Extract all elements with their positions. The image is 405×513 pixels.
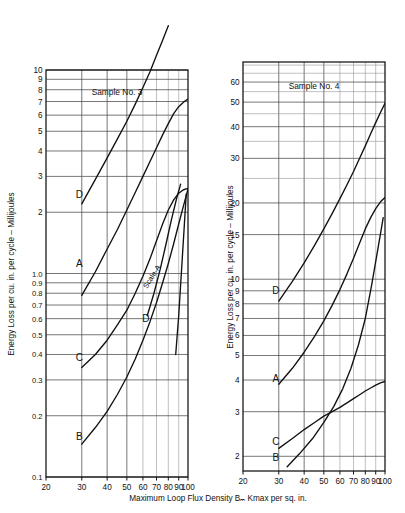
panel-0-ytick-0.8: 0.8: [32, 289, 43, 298]
panel-1-curve-label-B: B: [272, 452, 279, 463]
panel-0-curve-label-A: A: [76, 258, 83, 269]
panel-0-xtick-80: 80: [164, 483, 174, 492]
panel-0-curve-B: [82, 189, 188, 444]
panel-0-ytick-7: 7: [38, 98, 43, 107]
panel-1-ytick-9: 9: [235, 287, 240, 296]
panel-0-ytick-3: 3: [38, 172, 43, 181]
panel-1-xtick-60: 60: [335, 477, 345, 486]
panel-1-ytick-6: 6: [235, 331, 240, 340]
panel-0-ytick-4: 4: [38, 147, 43, 156]
panel-0-ytick-2: 2: [38, 208, 43, 217]
panel-1-ytick-30: 30: [230, 154, 240, 163]
panel-0-xtick-70: 70: [152, 483, 162, 492]
panel-0-ytick-9: 9: [38, 75, 43, 84]
panel-0-ytick-0.4: 0.4: [32, 350, 43, 359]
panel-1-curve-label-C: C: [272, 436, 279, 447]
panel-0-ytick-8: 8: [38, 86, 43, 95]
panel-0-ytick-0.1: 0.1: [32, 473, 43, 482]
panel-0-xtick-40: 40: [103, 483, 113, 492]
panel-0-ytick-0.7: 0.7: [32, 301, 43, 310]
figure-root: 0.10.20.30.40.50.60.70.80.91.02345678910…: [0, 0, 405, 513]
panel-1-xtick-40: 40: [300, 477, 310, 486]
panel-0-xtick-30: 30: [77, 483, 87, 492]
panel-1-frame: [243, 62, 385, 471]
y-axis-title-left: Energy Loss per cu. in. per cycle – Mill…: [7, 192, 16, 355]
panel-1-xtick-70: 70: [349, 477, 359, 486]
panel-1-curve-C: [279, 381, 385, 448]
panel-0-curve-E: [176, 194, 187, 354]
panel-1-ytick-8: 8: [235, 300, 240, 309]
panel-0-curve-D-scale-A: [147, 184, 180, 316]
panel-0-xtick-100: 100: [181, 483, 195, 492]
panel-0-xtick-60: 60: [138, 483, 148, 492]
panel-1-ytick-5: 5: [235, 351, 240, 360]
panel-0-annotation-0: Scale-A: [141, 263, 163, 290]
panel-0-curve-label-B: B: [76, 431, 83, 442]
panel-1-xtick-30: 30: [274, 477, 284, 486]
panel-0-xtick-50: 50: [122, 483, 132, 492]
panel-1-ytick-2: 2: [235, 452, 240, 461]
panel-0-curve-A: [82, 99, 188, 295]
panel-1-xtick-20: 20: [238, 477, 248, 486]
panel-1-curve-label-A: A: [272, 373, 279, 384]
panel-0-sample-title: Sample No. 3: [92, 87, 143, 97]
x-axis-title: Maximum Loop Flux Density Bₘ Kmax per sq…: [129, 494, 306, 503]
panel-1-ytick-4: 4: [235, 376, 240, 385]
panel-0-ytick-0.9: 0.9: [32, 279, 43, 288]
panel-1-ytick-60: 60: [230, 78, 240, 87]
panel-0-ytick-5: 5: [38, 127, 43, 136]
log-log-chart-pair: 0.10.20.30.40.50.60.70.80.91.02345678910…: [0, 0, 405, 513]
panel-1-curve-label-D: D: [272, 285, 279, 296]
panel-1-sample-title: Sample No. 4: [289, 81, 340, 91]
panel-1-xtick-80: 80: [361, 477, 371, 486]
panel-0-ytick-10: 10: [33, 66, 43, 75]
panel-0-curve-label-D: D: [76, 189, 83, 200]
panel-0-curve-label-C: C: [76, 352, 83, 363]
panel-1-xtick-100: 100: [378, 477, 392, 486]
panel-1-curve-B: [287, 218, 383, 467]
panel-0-ytick-6: 6: [38, 111, 43, 120]
panel-0-ytick-0.6: 0.6: [32, 315, 43, 324]
panel-0-ytick-1.0: 1.0: [32, 270, 43, 279]
panel-1-ytick-50: 50: [230, 98, 240, 107]
panel-1-curve-D: [279, 103, 385, 301]
panel-0-ytick-0.2: 0.2: [32, 412, 43, 421]
panel-0-xtick-20: 20: [41, 483, 51, 492]
panel-1-ytick-40: 40: [230, 123, 240, 132]
panel-1-xtick-50: 50: [319, 477, 329, 486]
y-axis-title-right: Energy Loss per cu. in. per cycle – Mill…: [226, 185, 235, 348]
panel-0-ytick-0.3: 0.3: [32, 376, 43, 385]
panel-1-ytick-7: 7: [235, 314, 240, 323]
panel-0-curve-label-D-scale-A: D: [142, 313, 149, 324]
panel-1-ytick-3: 3: [235, 408, 240, 417]
panel-0-ytick-0.5: 0.5: [32, 331, 43, 340]
